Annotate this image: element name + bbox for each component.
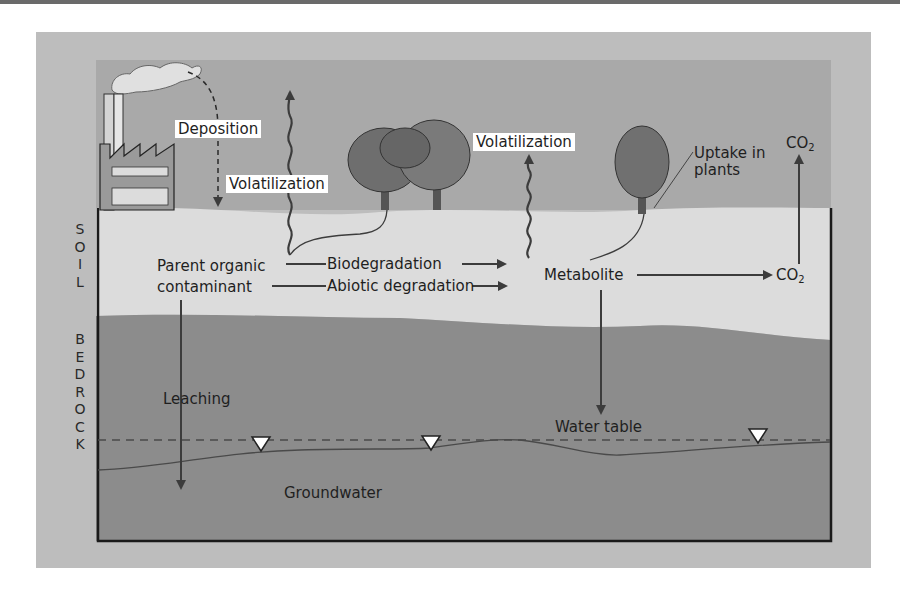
volatilization-label-2: Volatilization [473,133,575,151]
parent-line-2: contaminant [157,277,266,298]
parent-contaminant-label: Parent organic contaminant [157,256,266,298]
bedrock-side-label: B E D R O C K [72,331,88,454]
groundwater-label: Groundwater [284,484,382,502]
deposition-label: Deposition [175,120,261,138]
leaching-label: Leaching [163,390,230,408]
side-letter: L [72,274,88,292]
water-table-label: Water table [555,418,642,436]
volatilization-label-1: Volatilization [226,175,328,193]
side-letter: K [72,436,88,454]
diagram-scene [0,0,900,600]
co2-subscript: 2 [798,274,804,285]
biodegradation-label: Biodegradation [327,255,442,273]
side-letter: E [72,349,88,367]
parent-line-1: Parent organic [157,256,266,277]
uptake-line-1: Uptake in [694,145,765,162]
side-letter: C [72,419,88,437]
soil-side-label: S O I L [72,221,88,291]
co2-text: CO [776,266,798,284]
co2-text: CO [786,134,808,152]
uptake-label: Uptake in plants [694,145,765,179]
co2-subscript: 2 [808,142,814,153]
metabolite-label: Metabolite [544,266,623,284]
side-letter: B [72,331,88,349]
side-letter: O [72,239,88,257]
bedrock-layer [96,315,831,541]
side-letter: O [72,401,88,419]
side-letter: I [72,256,88,274]
co2-top-label: CO2 [786,134,815,157]
uptake-line-2: plants [694,162,765,179]
side-letter: S [72,221,88,239]
side-letter: D [72,366,88,384]
abiotic-degradation-label: Abiotic degradation [327,277,474,295]
side-letter: R [72,384,88,402]
co2-right-label: CO2 [776,266,805,289]
